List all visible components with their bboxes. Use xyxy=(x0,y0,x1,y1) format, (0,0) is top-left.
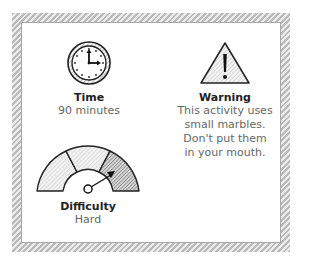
warning-line-2: small marbles. xyxy=(170,118,280,132)
clock-icon xyxy=(66,40,112,86)
difficulty-value: Hard xyxy=(28,213,148,227)
difficulty-gauge-icon xyxy=(33,145,143,197)
warning-line-3: Don't put them xyxy=(170,132,280,146)
time-title: Time xyxy=(45,91,133,104)
difficulty-section: Difficulty Hard xyxy=(28,145,148,227)
warning-section: Warning This activity uses small marbles… xyxy=(170,40,280,160)
time-value: 90 minutes xyxy=(45,104,133,118)
warning-triangle-icon xyxy=(198,40,252,86)
difficulty-title: Difficulty xyxy=(28,200,148,213)
warning-line-4: in your mouth. xyxy=(170,146,280,160)
warning-line-1: This activity uses xyxy=(170,104,280,118)
time-section: Time 90 minutes xyxy=(45,40,133,118)
warning-title: Warning xyxy=(170,91,280,104)
